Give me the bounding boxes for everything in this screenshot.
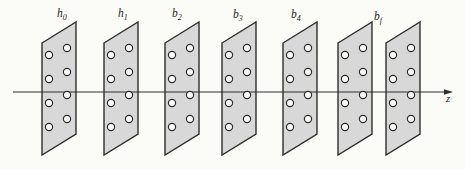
plate-5-hole-6 <box>359 91 366 98</box>
plate-6-hole-7 <box>407 115 414 122</box>
plate-3-hole-2 <box>225 99 232 106</box>
plate-5 <box>338 22 372 155</box>
plate-2 <box>165 22 199 155</box>
plate-0-hole-1 <box>45 75 52 82</box>
plate-2-hole-0 <box>168 51 175 58</box>
plate-1-hole-1 <box>107 75 114 82</box>
plate-label-subscript: 3 <box>238 14 243 23</box>
plate-4-hole-7 <box>304 115 311 122</box>
plate-1 <box>104 22 138 155</box>
plate-1-hole-7 <box>125 115 132 122</box>
plate-6-hole-5 <box>407 68 414 75</box>
plate-6-hole-6 <box>407 91 414 98</box>
plate-6-hole-1 <box>389 75 396 82</box>
plate-0-hole-4 <box>63 44 70 51</box>
plate-2-hole-4 <box>186 44 193 51</box>
plate-5-hole-2 <box>341 99 348 106</box>
plate-0-hole-6 <box>63 91 70 98</box>
plate-5-hole-3 <box>341 123 348 130</box>
plate-0 <box>42 22 76 155</box>
plate-6-hole-4 <box>407 44 414 51</box>
plate-6 <box>386 22 420 155</box>
plate-0-hole-7 <box>63 115 70 122</box>
plate-5-hole-5 <box>359 68 366 75</box>
plate-label-subscript: 2 <box>178 13 182 22</box>
plate-5-hole-1 <box>341 75 348 82</box>
plate-3-hole-5 <box>243 68 250 75</box>
z-axis-label: z <box>445 93 450 104</box>
plate-0-hole-5 <box>63 68 70 75</box>
plate-0-hole-2 <box>45 99 52 106</box>
plate-6-hole-0 <box>389 51 396 58</box>
plate-3-hole-0 <box>225 51 232 58</box>
plate-1-hole-6 <box>125 91 132 98</box>
plate-2-hole-1 <box>168 75 175 82</box>
plate-label-subscript: 4 <box>297 14 301 23</box>
plate-3-hole-6 <box>243 91 250 98</box>
plate-6-hole-3 <box>389 123 396 130</box>
plate-2-hole-7 <box>186 115 193 122</box>
plate-label-subscript: 0 <box>63 13 67 22</box>
plate-1-hole-4 <box>125 44 132 51</box>
plate-1-hole-5 <box>125 68 132 75</box>
plate-1-hole-2 <box>107 99 114 106</box>
plate-0-hole-0 <box>45 51 52 58</box>
plate-3-hole-3 <box>225 123 232 130</box>
plate-4 <box>283 22 317 155</box>
diagram-svg: h0h1b2b3b4bfz <box>0 0 465 169</box>
plate-5-hole-7 <box>359 115 366 122</box>
plate-1-hole-3 <box>107 123 114 130</box>
plate-0-hole-3 <box>45 123 52 130</box>
plate-3-hole-1 <box>225 75 232 82</box>
plate-4-hole-1 <box>286 75 293 82</box>
plate-6-hole-2 <box>389 99 396 106</box>
plate-3 <box>222 22 256 155</box>
plate-2-hole-2 <box>168 99 175 106</box>
plate-4-hole-5 <box>304 68 311 75</box>
plate-3-hole-7 <box>243 115 250 122</box>
plate-5-hole-4 <box>359 44 366 51</box>
plate-2-hole-3 <box>168 123 175 130</box>
plate-4-hole-0 <box>286 51 293 58</box>
plate-label-subscript: 1 <box>124 13 128 22</box>
plate-2-hole-6 <box>186 91 193 98</box>
figure-canvas: h0h1b2b3b4bfz <box>0 0 465 169</box>
plate-4-hole-3 <box>286 123 293 130</box>
plate-2-hole-5 <box>186 68 193 75</box>
plate-1-hole-0 <box>107 51 114 58</box>
plate-3-hole-4 <box>243 44 250 51</box>
plate-4-hole-4 <box>304 44 311 51</box>
plate-4-hole-6 <box>304 91 311 98</box>
plate-5-hole-0 <box>341 51 348 58</box>
plate-4-hole-2 <box>286 99 293 106</box>
